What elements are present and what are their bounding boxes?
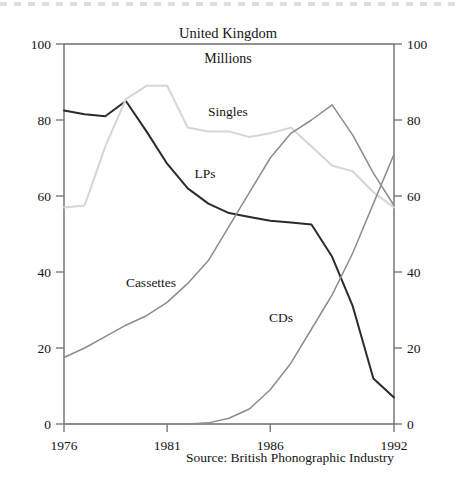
series-label-cds: CDs <box>269 310 293 325</box>
source-note: Source: British Phonographic Industry <box>186 450 394 465</box>
x-tick-label: 1992 <box>381 438 408 453</box>
series-label-singles: Singles <box>208 104 248 119</box>
y-tick-label-left: 80 <box>38 113 52 128</box>
line-chart: United Kingdom Millions Singles LPs Cass… <box>0 0 457 484</box>
y-tick-label-left: 20 <box>38 341 52 356</box>
y-tick-label-right: 80 <box>407 113 421 128</box>
x-tick-label: 1981 <box>154 438 181 453</box>
y-tick-label-left: 60 <box>38 189 52 204</box>
chart-subtitle: Millions <box>204 51 251 66</box>
chart-page: United Kingdom Millions Singles LPs Cass… <box>0 0 457 484</box>
chart-text-layer: United Kingdom Millions Singles LPs Cass… <box>0 0 457 484</box>
tick-label-group: 0020204040606080801001001976198119861992 <box>31 37 428 453</box>
y-tick-label-left: 40 <box>38 265 52 280</box>
y-tick-label-right: 0 <box>407 417 414 432</box>
x-tick-label: 1986 <box>257 438 284 453</box>
x-tick-label: 1976 <box>51 438 78 453</box>
series-label-cassettes: Cassettes <box>126 275 176 290</box>
y-tick-label-right: 100 <box>407 37 428 52</box>
y-tick-label-right: 40 <box>407 265 421 280</box>
y-tick-label-left: 0 <box>44 417 51 432</box>
y-tick-label-left: 100 <box>31 37 52 52</box>
series-label-lps: LPs <box>194 166 215 181</box>
y-tick-label-right: 60 <box>407 189 421 204</box>
chart-title: United Kingdom <box>179 25 278 41</box>
y-tick-label-right: 20 <box>407 341 421 356</box>
